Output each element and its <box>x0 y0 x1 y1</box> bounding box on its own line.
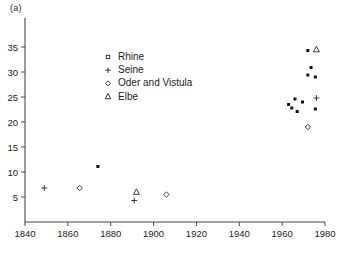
plot-axes <box>25 18 325 222</box>
scatter-plot: 5101520253035 18401860188019001920194019… <box>0 0 339 267</box>
marker-square-filled-icon <box>310 66 313 69</box>
legend-item-rhine: Rhine <box>106 51 144 62</box>
marker-triangle-open-icon <box>313 46 319 52</box>
marker-diamond-open-icon <box>105 81 110 86</box>
legend-item-seine: Seine <box>105 64 144 75</box>
x-tick-label: 1920 <box>186 228 207 239</box>
x-tick-label: 1960 <box>272 228 293 239</box>
legend-label: Elbe <box>118 91 138 102</box>
y-tick-label: 15 <box>7 142 18 153</box>
marker-square-filled-icon <box>301 101 304 104</box>
marker-diamond-open-icon <box>305 124 310 129</box>
x-tick-label: 1880 <box>100 228 121 239</box>
y-tick-label: 30 <box>7 67 18 78</box>
marker-diamond-open-icon <box>77 185 82 190</box>
marker-plus-icon <box>314 95 320 101</box>
legend-label: Seine <box>118 64 144 75</box>
legend-item-oder-and-vistula: Oder and Vistula <box>105 77 192 88</box>
y-tick-label: 35 <box>7 42 18 53</box>
y-tick-label: 25 <box>7 92 18 103</box>
x-tick-label: 1860 <box>57 228 78 239</box>
series-oder-and-vistula <box>77 124 311 197</box>
series-seine <box>41 95 319 203</box>
data-points <box>41 46 319 203</box>
marker-plus-icon <box>131 198 137 204</box>
x-tick-label: 1840 <box>14 228 35 239</box>
marker-square-filled-icon <box>314 76 317 79</box>
legend: RhineSeineOder and VistulaElbe <box>105 51 193 102</box>
marker-plus-icon <box>105 67 111 73</box>
series-elbe <box>133 46 319 194</box>
marker-square-filled-icon <box>314 108 317 111</box>
x-tick-label: 1980 <box>314 228 335 239</box>
marker-square-filled-icon <box>294 98 297 101</box>
marker-square-filled-icon <box>96 165 99 168</box>
marker-square-open-icon <box>106 55 109 58</box>
x-tick-label: 1940 <box>229 228 250 239</box>
figure-panel-a: (a) 5101520253035 1840186018801900192019… <box>0 0 339 267</box>
marker-square-filled-icon <box>296 110 299 113</box>
y-tick-label: 10 <box>7 167 18 178</box>
panel-label: (a) <box>10 3 22 13</box>
marker-diamond-open-icon <box>164 192 169 197</box>
marker-square-filled-icon <box>306 74 309 77</box>
marker-triangle-open-icon <box>133 189 139 195</box>
y-tick-label: 5 <box>13 192 18 203</box>
marker-square-filled-icon <box>287 103 290 106</box>
legend-label: Rhine <box>118 51 145 62</box>
marker-square-filled-icon <box>290 107 293 110</box>
marker-square-filled-icon <box>306 49 309 52</box>
y-axis-ticks: 5101520253035 <box>7 42 25 203</box>
x-tick-label: 1900 <box>143 228 164 239</box>
x-axis-ticks: 18401860188019001920194019601980 <box>14 222 335 239</box>
marker-triangle-open-icon <box>105 94 111 99</box>
legend-item-elbe: Elbe <box>105 91 138 102</box>
legend-label: Oder and Vistula <box>118 77 193 88</box>
y-tick-label: 20 <box>7 117 18 128</box>
marker-plus-icon <box>41 185 47 191</box>
